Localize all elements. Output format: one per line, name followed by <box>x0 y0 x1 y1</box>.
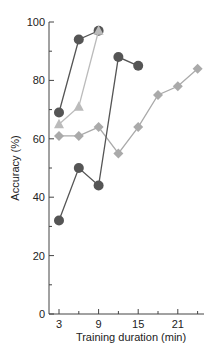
series-line <box>59 69 198 154</box>
diamond-marker <box>153 90 163 100</box>
y-tick-label: 100 <box>27 16 45 28</box>
y-axis-title: Accuracy (%) <box>9 135 21 200</box>
triangle-marker <box>74 101 84 111</box>
y-tick-label: 0 <box>39 308 45 320</box>
y-tick-label: 20 <box>33 250 45 262</box>
y-tick-label: 80 <box>33 74 45 86</box>
diamond-marker <box>113 148 123 158</box>
circle-marker <box>74 163 84 173</box>
x-tick-label: 3 <box>56 318 62 330</box>
y-tick-label: 40 <box>33 191 45 203</box>
diamond-marker <box>94 122 104 132</box>
diamond-marker <box>74 131 84 141</box>
series-2 <box>54 64 203 159</box>
circle-marker <box>74 35 84 45</box>
x-axis-title: Training duration (min) <box>76 331 186 343</box>
line-chart: 020406080100391521Training duration (min… <box>0 0 213 358</box>
series-line <box>59 57 138 221</box>
x-tick-label: 15 <box>132 318 144 330</box>
x-tick-label: 9 <box>96 318 102 330</box>
circle-marker <box>54 108 64 118</box>
x-tick-label: 21 <box>172 318 184 330</box>
circle-marker <box>54 216 64 226</box>
circle-marker <box>113 52 123 62</box>
circle-marker <box>94 181 104 191</box>
diamond-marker <box>54 131 64 141</box>
y-tick-label: 60 <box>33 133 45 145</box>
diamond-marker <box>133 122 143 132</box>
triangle-marker <box>54 119 64 129</box>
circle-marker <box>133 61 143 71</box>
